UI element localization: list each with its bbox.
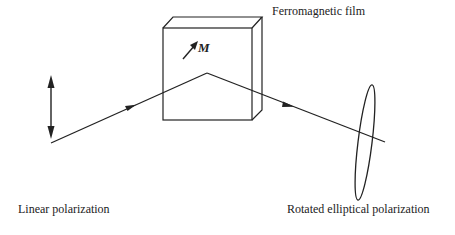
magnetization-label: M	[198, 40, 210, 56]
magnetization-arrow-icon	[183, 41, 198, 59]
linear-polarization-double-arrow-icon	[48, 75, 55, 139]
rotated-elliptical-polarization-label: Rotated elliptical polarization	[287, 202, 430, 217]
kerr-effect-diagram: M Ferromagnetic film Linear polarization…	[0, 0, 455, 235]
ferromagnetic-film-label: Ferromagnetic film	[272, 4, 365, 19]
ferromagnetic-film-slab	[163, 17, 262, 120]
diagram-graphics	[0, 0, 455, 235]
elliptical-polarization-ellipse-icon	[351, 84, 379, 201]
linear-polarization-label: Linear polarization	[18, 202, 110, 217]
reflected-arrowhead-icon	[282, 102, 294, 108]
reflected-beam	[207, 73, 385, 142]
incident-beam	[51, 73, 207, 143]
incident-arrowhead-icon	[125, 105, 136, 111]
